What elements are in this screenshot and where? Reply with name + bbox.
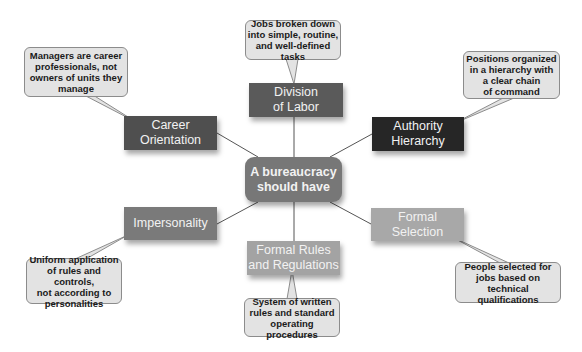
callout-text: Jobs broken down into simple, routine, a… [246,18,340,62]
callout-text: System of written rules and standard ope… [245,296,339,340]
node-label: Authority Hierarchy [391,119,445,149]
node-label: Formal Rules and Regulations [248,243,338,273]
callout-text: Uniform application of rules and control… [27,254,121,309]
node-authority-hierarchy: Authority Hierarchy [372,117,464,151]
callout-text: Managers are career professionals, not o… [30,50,122,94]
callout-formal-selection: People selected for jobs based on techni… [455,262,561,303]
node-label: Career Orientation [140,118,201,148]
node-label: Formal Selection [392,210,443,240]
node-formal-rules: Formal Rules and Regulations [247,241,340,275]
callout-text: People selected for jobs based on techni… [456,261,560,305]
node-label: Impersonality [133,216,207,231]
node-formal-selection: Formal Selection [371,208,464,241]
callout-division-of-labor: Jobs broken down into simple, routine, a… [245,20,341,60]
node-center-bureaucracy: A bureaucracy should have [245,157,342,202]
center-label: A bureaucracy should have [250,165,336,195]
callout-career-orientation: Managers are career professionals, not o… [24,47,128,97]
node-label: Division of Labor [273,85,319,115]
node-impersonality: Impersonality [124,207,217,240]
callout-impersonality: Uniform application of rules and control… [26,258,122,304]
callout-text: Positions organized in a hierarchy with … [466,53,556,97]
callout-formal-rules: System of written rules and standard ope… [244,298,340,337]
callout-authority-hierarchy: Positions organized in a hierarchy with … [463,51,560,99]
node-career-orientation: Career Orientation [124,116,217,150]
node-division-of-labor: Division of Labor [249,83,343,117]
